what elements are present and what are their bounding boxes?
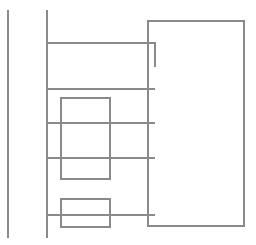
- diagram-canvas: [0, 0, 256, 245]
- line-diagram: [0, 0, 256, 245]
